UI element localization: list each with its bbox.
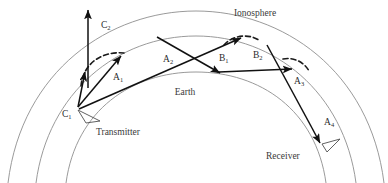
receiver-antenna-icon	[322, 139, 340, 152]
transmitter-antenna-icon	[78, 110, 100, 123]
ionosphere-label: Ionosphere	[234, 8, 276, 18]
label-group: Ionosphere Earth Transmitter Receiver C2…	[62, 8, 335, 161]
path-label-a2: A2	[163, 54, 173, 65]
ionosphere-outer-arc	[8, 11, 384, 183]
path-label-b1: B1	[219, 53, 229, 64]
skywave-propagation-diagram: Ionosphere Earth Transmitter Receiver C2…	[0, 0, 388, 183]
path-label-b2: B2	[253, 50, 263, 61]
path-label-a3: A3	[294, 76, 304, 87]
path-label-a4: A4	[324, 117, 335, 128]
transmitter-label: Transmitter	[96, 127, 141, 137]
path-label-a1: A1	[113, 72, 123, 83]
arc-group	[8, 11, 384, 183]
ray-a3	[267, 45, 312, 128]
path-label-c2: C2	[101, 20, 111, 31]
receiver-label: Receiver	[266, 151, 301, 161]
path-label-c1: C1	[62, 109, 72, 120]
earth-label: Earth	[175, 87, 196, 97]
